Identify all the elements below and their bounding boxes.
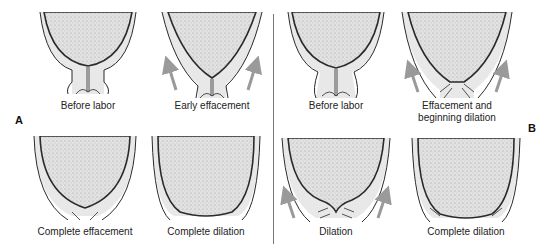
caption-b-before-labor: Before labor [286,100,386,112]
diagram-b-complete-dilation [410,138,522,222]
caption-a-before-labor: Before labor [38,100,138,112]
panel-letter-a: A [15,114,23,126]
caption-a-early-effacement: Early effacement [160,100,264,112]
diagram-a-before-labor [38,12,138,94]
panel-letter-b: B [528,122,536,134]
diagram-b-dilation [280,138,392,222]
caption-line-2: beginning dilation [418,112,496,123]
caption-line-1: Effacement and [422,100,492,111]
caption-a-complete-dilation: Complete dilation [150,226,262,238]
panel-divider [273,14,274,244]
caption-a-complete-effacement: Complete effacement [32,226,138,238]
caption-b-dilation: Dilation [280,226,392,238]
caption-b-effacement-beginning-dilation: Effacement and beginning dilation [400,100,514,124]
diagram-b-effacement-beginning-dilation [400,12,514,98]
diagram-a-early-effacement [160,12,264,98]
diagram-b-before-labor [286,12,386,98]
diagram-a-complete-dilation [150,136,262,220]
caption-b-complete-dilation: Complete dilation [410,226,522,238]
diagram-a-complete-effacement [32,136,138,220]
